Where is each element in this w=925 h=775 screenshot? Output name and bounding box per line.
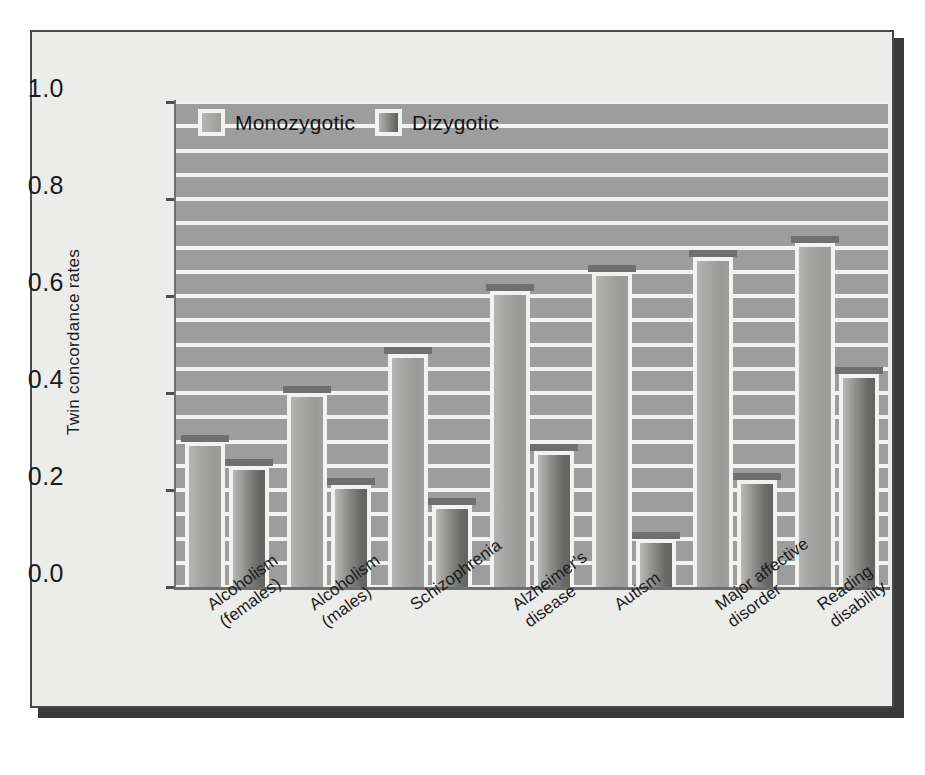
- bar-cap: [689, 250, 737, 257]
- ytick-label-4: 0.8: [0, 171, 64, 200]
- bar-group: [176, 102, 278, 587]
- legend-item-dizygotic[interactable]: Dizygotic: [375, 109, 499, 136]
- bar-cap: [486, 284, 534, 291]
- bar-cap: [835, 367, 883, 374]
- legend-swatch-monozygotic: [198, 109, 225, 136]
- chart-figure: 0.0 0.2 0.4 0.6 0.8 1.0 Twin concordance…: [0, 0, 925, 775]
- y-axis-title: Twin concordance rates: [64, 222, 84, 462]
- legend-label-monozygotic: Monozygotic: [235, 111, 355, 135]
- bar-cap: [791, 236, 839, 243]
- bar-cap: [530, 444, 578, 451]
- bar-cap: [225, 459, 273, 466]
- ytick-label-0: 0.0: [0, 559, 64, 588]
- bar-cap: [181, 435, 229, 442]
- bar-cap: [588, 265, 636, 272]
- ytick-label-1: 0.2: [0, 462, 64, 491]
- bar-cap: [327, 478, 375, 485]
- bar-monozygotic[interactable]: [185, 442, 225, 588]
- bar-body: [185, 442, 225, 588]
- bar-cap: [283, 386, 331, 393]
- ytick-label-3: 0.6: [0, 268, 64, 297]
- legend-label-dizygotic: Dizygotic: [412, 111, 499, 135]
- ytick-label-2: 0.4: [0, 365, 64, 394]
- y-axis-line: [174, 100, 176, 589]
- legend-swatch-dizygotic: [375, 109, 402, 136]
- legend: Monozygotic Dizygotic: [198, 109, 499, 136]
- ytick-label-5: 1.0: [0, 74, 64, 103]
- legend-item-monozygotic[interactable]: Monozygotic: [198, 109, 355, 136]
- bar-cap: [384, 347, 432, 354]
- bar-cap: [733, 473, 781, 480]
- chart-panel: 0.0 0.2 0.4 0.6 0.8 1.0 Twin concordance…: [30, 30, 894, 708]
